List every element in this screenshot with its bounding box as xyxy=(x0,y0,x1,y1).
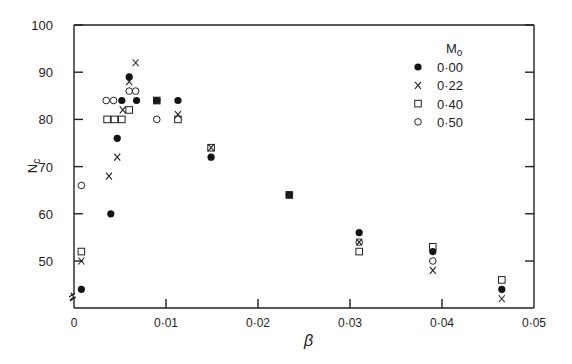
data-point xyxy=(106,173,112,180)
data-point xyxy=(174,97,181,104)
y-tick-label: 50 xyxy=(39,254,53,269)
y-axis-label: Nc xyxy=(25,159,42,173)
data-point xyxy=(207,154,214,161)
scatter-chart: 506070809010000·010·020·030·040·05βNc Mo… xyxy=(0,0,572,364)
data-point xyxy=(499,295,505,302)
x-tick-label: 0·03 xyxy=(338,316,362,330)
legend-marker xyxy=(415,119,422,126)
x-tick-label: 0·01 xyxy=(154,316,178,330)
data-point xyxy=(430,267,436,274)
x-tick-label: 0·04 xyxy=(430,316,454,330)
data-point xyxy=(78,248,85,255)
chart-canvas: 506070809010000·010·020·030·040·05βNc Mo… xyxy=(0,0,572,364)
x-tick-label: 0·05 xyxy=(522,316,546,330)
legend-label: 0·50 xyxy=(437,115,463,130)
data-point xyxy=(114,154,120,161)
data-point xyxy=(430,258,437,265)
x-tick-label: 0 xyxy=(71,316,78,330)
data-point xyxy=(118,97,125,104)
series-open-circle xyxy=(78,88,436,265)
y-tick-label: 80 xyxy=(39,112,53,127)
data-point xyxy=(78,182,85,189)
legend-label: 0·40 xyxy=(437,97,463,112)
data-point xyxy=(111,116,118,123)
x-tick-label: 0·02 xyxy=(246,316,270,330)
data-point xyxy=(107,210,114,217)
legend-marker xyxy=(414,63,421,70)
data-point xyxy=(175,111,181,118)
data-point xyxy=(208,144,214,151)
legend: Mo0·000·220·400·50 xyxy=(414,41,463,130)
data-point xyxy=(104,116,111,123)
data-point xyxy=(133,97,140,104)
data-point xyxy=(126,88,133,95)
data-point xyxy=(154,116,161,123)
legend-marker xyxy=(415,100,422,107)
y-axis-line xyxy=(70,25,74,308)
data-point xyxy=(78,286,85,293)
data-point xyxy=(429,248,436,255)
data-point xyxy=(356,248,363,255)
data-point xyxy=(114,135,121,142)
y-tick-label: 90 xyxy=(39,65,53,80)
legend-title: Mo xyxy=(446,41,463,58)
data-point xyxy=(120,106,126,113)
legend-label: 0·22 xyxy=(437,78,463,93)
legend-label: 0·00 xyxy=(437,60,463,75)
data-point xyxy=(119,116,126,123)
y-tick-label: 100 xyxy=(31,18,53,33)
data-point xyxy=(498,286,505,293)
data-point xyxy=(133,59,139,66)
x-axis-label: β xyxy=(303,332,313,349)
data-point xyxy=(110,97,117,104)
data-point xyxy=(132,88,139,95)
legend-marker xyxy=(415,82,421,89)
data-point xyxy=(499,277,506,284)
data-point xyxy=(103,97,110,104)
axes: 506070809010000·010·020·030·040·05βNc xyxy=(25,18,546,349)
y-tick-label: 60 xyxy=(39,207,53,222)
data-point xyxy=(126,107,133,114)
data-point xyxy=(356,229,363,236)
